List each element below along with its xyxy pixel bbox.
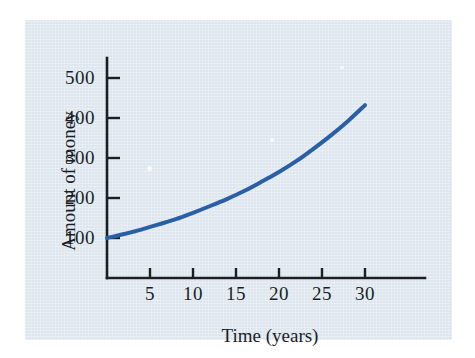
x-tick-label-15: 15 — [219, 283, 253, 305]
x-tick-label-20: 20 — [262, 283, 296, 305]
x-axis-title: Time (years) — [190, 325, 350, 347]
chart-panel: 500 400 300 200 100 5 10 15 20 25 30 Tim… — [25, 20, 452, 340]
x-tick-label-5: 5 — [133, 283, 167, 305]
x-tick-label-10: 10 — [176, 283, 210, 305]
y-tick-label-500: 500 — [43, 67, 95, 89]
x-tick-label-30: 30 — [348, 283, 382, 305]
data-series-line — [107, 105, 365, 238]
y-axis-title: Amount of money — [58, 101, 80, 261]
x-tick-label-25: 25 — [305, 283, 339, 305]
figure-root: 500 400 300 200 100 5 10 15 20 25 30 Tim… — [0, 0, 475, 358]
